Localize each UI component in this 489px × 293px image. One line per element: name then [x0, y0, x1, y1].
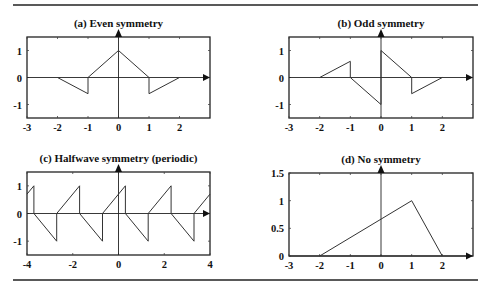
- y-tick-label: -1: [275, 100, 284, 111]
- x-tick-label: 2: [440, 122, 445, 133]
- x-tick-label: -3: [285, 260, 294, 271]
- x-tick-label: 1: [409, 260, 414, 271]
- x-tick-label: 0: [378, 260, 383, 271]
- subplot-b-title: (b) Odd symmetry: [338, 17, 425, 30]
- x-tick-label: 2: [440, 260, 445, 271]
- x-tick-label: -2: [68, 259, 77, 270]
- subplot-a-title: (a) Even symmetry: [74, 17, 164, 30]
- figure: (a) Even symmetry -3-2-1012-101 (b) Odd …: [0, 0, 489, 293]
- x-axis-arrow-icon: [203, 74, 210, 81]
- x-tick-label: 0: [116, 122, 121, 133]
- y-tick-label: 0: [17, 209, 22, 220]
- subplot-d-title: (d) No symmetry: [341, 153, 421, 166]
- x-tick-label: -2: [315, 122, 324, 133]
- subplot-a: (a) Even symmetry -3-2-1012-101: [13, 17, 210, 133]
- y-tick-label: 0.5: [271, 223, 284, 234]
- x-axis-arrow-icon: [466, 74, 473, 81]
- x-tick-label: -2: [53, 122, 62, 133]
- y-tick-label: -1: [13, 100, 22, 111]
- x-tick-label: 2: [177, 122, 182, 133]
- y-axis-arrow-icon: [378, 165, 385, 173]
- y-tick-label: 1: [279, 46, 284, 57]
- x-tick-label: 1: [409, 122, 414, 133]
- x-axis-arrow-icon: [203, 210, 210, 217]
- y-axis-arrow-icon: [378, 29, 385, 37]
- x-tick-label: -1: [346, 122, 355, 133]
- y-axis-arrow-icon: [115, 164, 122, 172]
- x-tick-label: -3: [23, 122, 32, 133]
- y-tick-label: 0: [279, 251, 284, 262]
- y-tick-label: 1: [279, 196, 284, 207]
- x-tick-label: -2: [315, 260, 324, 271]
- x-tick-label: 0: [378, 122, 383, 133]
- x-tick-label: 2: [162, 259, 167, 270]
- x-tick-label: -4: [23, 259, 32, 270]
- subplot-b: (b) Odd symmetry -3-2-1012-101: [275, 17, 473, 133]
- subplot-c: (c) Halfwave symmetry (periodic) -4-2024…: [13, 152, 213, 270]
- y-tick-label: 1: [17, 46, 22, 57]
- y-tick-label: 1.5: [271, 168, 284, 179]
- y-tick-label: -1: [13, 236, 22, 247]
- x-tick-label: 4: [207, 259, 213, 270]
- x-tick-label: 1: [146, 122, 151, 133]
- x-tick-label: -1: [346, 260, 355, 271]
- y-tick-label: 0: [279, 73, 284, 84]
- subplot-d: (d) No symmetry -3-2-101200.511.5: [271, 153, 473, 271]
- x-tick-label: 0: [116, 259, 121, 270]
- y-tick-label: 0: [17, 73, 22, 84]
- y-tick-label: 1: [17, 181, 22, 192]
- subplot-c-title: (c) Halfwave symmetry (periodic): [40, 152, 198, 165]
- x-tick-label: -1: [84, 122, 93, 133]
- y-axis-arrow-icon: [115, 29, 122, 37]
- x-axis-arrow-icon: [466, 253, 473, 260]
- x-tick-label: -3: [285, 122, 294, 133]
